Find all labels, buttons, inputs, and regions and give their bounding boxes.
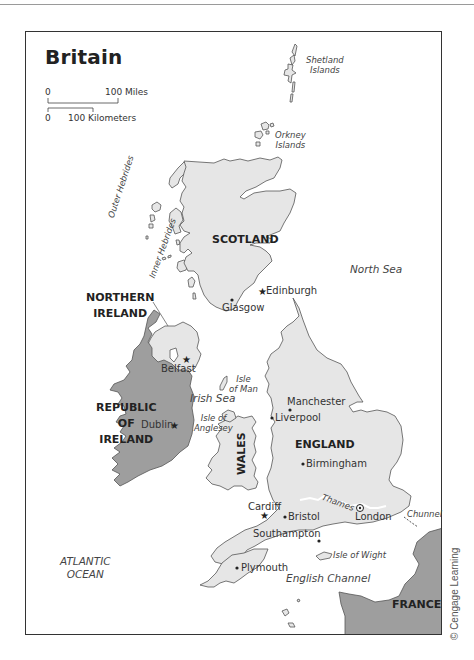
label-cardiff: Cardiff bbox=[248, 501, 281, 512]
label-london: London bbox=[355, 511, 392, 522]
shetland-line2: Islands bbox=[306, 65, 344, 75]
shetland-line1: Shetland bbox=[306, 55, 344, 65]
label-edinburgh: Edinburgh bbox=[266, 285, 317, 296]
map-title: Britain bbox=[45, 45, 123, 69]
northern-ireland-line1: NORTHERN bbox=[86, 290, 154, 306]
label-manchester: Manchester bbox=[287, 396, 345, 407]
label-chunnel: Chunnel bbox=[407, 509, 442, 519]
label-france: FRANCE bbox=[392, 597, 441, 613]
label-atlantic-ocean: ATLANTIC OCEAN bbox=[60, 555, 111, 581]
label-plymouth: Plymouth bbox=[241, 562, 288, 573]
scale-miles-start: 0 bbox=[45, 87, 51, 97]
label-bristol: Bristol bbox=[288, 511, 320, 522]
anglesey-line1: Isle of bbox=[194, 413, 233, 423]
scale-miles-end: 100 Miles bbox=[105, 87, 148, 97]
label-belfast: Belfast bbox=[161, 363, 196, 374]
scale-km-end: 100 Kilometers bbox=[68, 113, 136, 123]
plymouth-dot-icon bbox=[235, 566, 238, 569]
label-wales: WALES bbox=[234, 432, 250, 475]
atlantic-line2: OCEAN bbox=[60, 568, 111, 581]
southampton-dot-icon bbox=[317, 539, 320, 542]
label-glasgow: Glasgow bbox=[222, 302, 265, 313]
label-orkney: Orkney Islands bbox=[275, 130, 306, 150]
copyright-notice: © Cengage Learning bbox=[449, 548, 460, 640]
label-shetland: Shetland Islands bbox=[306, 55, 344, 75]
isle-of-man-line1: Isle bbox=[229, 374, 258, 384]
label-north-sea: North Sea bbox=[350, 263, 402, 276]
orkney-line2: Islands bbox=[275, 140, 306, 150]
label-english-channel: English Channel bbox=[286, 572, 370, 585]
bristol-dot-icon bbox=[283, 515, 286, 518]
orkney-line1: Orkney bbox=[275, 130, 306, 140]
republic-line3: IRELAND bbox=[96, 432, 157, 448]
label-england: ENGLAND bbox=[295, 437, 355, 453]
scale-km-start: 0 bbox=[45, 113, 51, 123]
birmingham-dot-icon bbox=[301, 462, 304, 465]
liverpool-dot-icon bbox=[270, 416, 273, 419]
atlantic-line1: ATLANTIC bbox=[60, 555, 111, 568]
label-anglesey: Isle of Anglesey bbox=[194, 413, 233, 433]
label-southampton: Southampton bbox=[253, 528, 321, 539]
label-birmingham: Birmingham bbox=[306, 458, 367, 469]
label-dublin: Dublin bbox=[141, 419, 173, 430]
republic-line1: REPUBLIC bbox=[96, 400, 157, 416]
label-irish-sea: Irish Sea bbox=[190, 392, 235, 405]
label-isle-of-wight: Isle of Wight bbox=[333, 550, 386, 560]
label-liverpool: Liverpool bbox=[275, 412, 321, 423]
label-northern-ireland: NORTHERN IRELAND bbox=[86, 290, 154, 322]
anglesey-line2: Anglesey bbox=[194, 423, 233, 433]
northern-ireland-line2: IRELAND bbox=[86, 306, 154, 322]
label-scotland: SCOTLAND bbox=[212, 232, 279, 248]
